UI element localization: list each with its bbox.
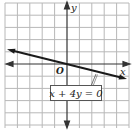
origin-label: O: [56, 66, 64, 76]
equation-label: x + 4y = 0: [49, 88, 103, 99]
y-axis-down-arrow-icon: [65, 121, 70, 128]
x-axis-label: x: [120, 66, 126, 77]
line-left-arrow-icon: [7, 49, 16, 54]
coordinate-plane: y x O: [0, 0, 136, 134]
y-axis-label: y: [70, 2, 77, 13]
x-axis-left-arrow-icon: [6, 62, 13, 67]
equation-label-box: x + 4y = 0: [50, 85, 102, 101]
